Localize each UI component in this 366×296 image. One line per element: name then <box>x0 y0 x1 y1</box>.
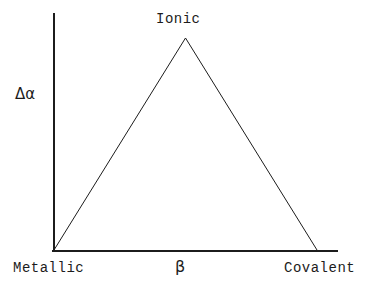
apex-label-ionic: Ionic <box>156 12 201 26</box>
curve-right-leg <box>186 38 318 250</box>
x-axis-right-label-covalent: Covalent <box>284 261 355 275</box>
curve-left-leg <box>54 38 186 250</box>
plot-area <box>0 0 366 296</box>
x-axis-label-beta: β <box>175 259 185 275</box>
y-axis-label: Δα <box>15 87 35 102</box>
figure-canvas: Ionic Δα Metallic β Covalent <box>0 0 366 296</box>
x-axis-left-label-metallic: Metallic <box>13 261 84 275</box>
